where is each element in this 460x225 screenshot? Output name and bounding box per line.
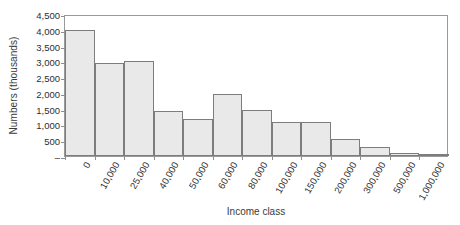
y-axis-tick-label: 500 [22,136,60,147]
bar [272,122,302,156]
x-axis-tick-label: 150,000 [302,160,329,195]
bar [360,147,390,156]
y-axis-title-text: Numbers (thousands) [8,36,19,134]
bar [301,122,331,156]
x-axis-tick-label: 60,000 [216,160,240,191]
bar [95,63,125,156]
bar [242,110,272,156]
x-axis-tick-label: 100,000 [272,160,299,195]
y-axis-tick-label: 2,500 [22,73,60,84]
bars-layer [65,16,447,156]
y-axis-tick-label: 3,000 [22,57,60,68]
x-axis-tick-label: 200,000 [331,160,358,195]
x-axis-tick-labels: 010,00025,00040,00050,00060,00080,000100… [64,160,448,206]
bar [331,139,361,156]
bar [154,111,184,156]
x-axis-tick-label: 500,000 [391,160,418,195]
x-axis-title: Income class [64,206,448,217]
bar [213,94,243,156]
y-axis-tick-label: 2,000 [22,88,60,99]
y-axis-tick-label: 3,500 [22,41,60,52]
y-axis-tick-label: 1,500 [22,104,60,115]
y-axis-tick-label: 4,500 [22,10,60,21]
x-axis-tick-label: 80,000 [245,160,269,191]
y-axis-tick-label: 1,000 [22,120,60,131]
x-axis-tick-label: 40,000 [157,160,181,191]
bar [390,153,420,156]
bar [65,30,95,156]
y-axis-tick-mark [61,111,65,112]
bar [419,154,449,156]
x-axis-tick-label: 0 [80,160,92,170]
y-axis-tick-label: 4,000 [22,25,60,36]
y-axis-tick-mark [61,16,65,17]
y-axis-tick-mark [61,32,65,33]
x-axis-tick-label: 25,000 [127,160,151,191]
y-axis-tick-labels: –5001,0001,5002,0002,5003,0003,5004,0004… [22,11,60,161]
y-axis-tick-mark [61,126,65,127]
x-axis-tick-label: 50,000 [186,160,210,191]
bar [183,119,213,156]
y-axis-tick-mark [61,79,65,80]
histogram-chart: Numbers (thousands) –5001,0001,5002,0002… [0,0,460,225]
x-axis-tick-label: 1,000,000 [416,160,447,202]
y-axis-tick-mark [61,95,65,96]
y-axis-tick-mark [61,63,65,64]
plot-area [64,15,448,157]
x-axis-tick-label: 10,000 [98,160,122,191]
x-axis-tick-label: 300,000 [361,160,388,195]
bar [124,61,154,156]
y-axis-tick-mark [61,142,65,143]
y-axis-tick-mark [61,48,65,49]
y-axis-tick-label: – [22,152,60,163]
